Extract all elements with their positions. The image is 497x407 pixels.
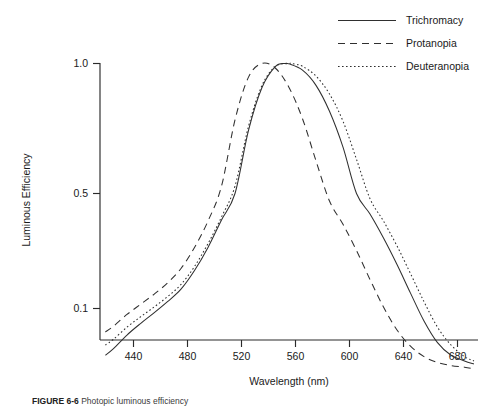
y-axis-tick-labels: 1.0 0.5 0.1: [73, 57, 88, 314]
legend-label-trichromacy: Trichromacy: [406, 14, 464, 26]
x-tick-label-600: 600: [341, 350, 359, 362]
x-axis-ticks: [134, 340, 458, 347]
figure-caption-number: FIGURE 6-6: [32, 396, 79, 406]
curve-deuteranopia: [105, 63, 474, 361]
y-tick-label-3: 0.1: [73, 302, 88, 314]
legend: Trichromacy Protanopia Deuteranopia: [338, 14, 469, 72]
curve-protanopia: [105, 63, 474, 369]
luminous-efficiency-chart: 1.0 0.5 0.1 440 480 520 560 600 640 680 …: [0, 0, 497, 407]
x-axis-title: Wavelength (nm): [249, 375, 329, 387]
legend-label-deuteranopia: Deuteranopia: [406, 60, 469, 72]
x-tick-label-560: 560: [287, 350, 305, 362]
x-tick-label-440: 440: [125, 350, 143, 362]
y-axis-title: Luminous Efficiency: [20, 153, 32, 247]
y-tick-label-2: 0.5: [73, 187, 88, 199]
x-tick-label-640: 640: [395, 350, 413, 362]
curve-trichromacy: [105, 63, 474, 364]
y-axis-ticks: [93, 64, 100, 309]
figure-caption-text: Photopic luminous efficiency: [81, 396, 188, 406]
legend-label-protanopia: Protanopia: [406, 37, 457, 49]
x-tick-label-520: 520: [233, 350, 251, 362]
figure-container: 1.0 0.5 0.1 440 480 520 560 600 640 680 …: [0, 0, 497, 407]
y-tick-label-1: 1.0: [73, 57, 88, 69]
figure-caption: FIGURE 6-6 Photopic luminous efficiency: [32, 396, 472, 407]
x-axis-tick-labels: 440 480 520 560 600 640 680: [125, 350, 467, 362]
x-tick-label-480: 480: [179, 350, 197, 362]
curves-group: [105, 63, 474, 369]
